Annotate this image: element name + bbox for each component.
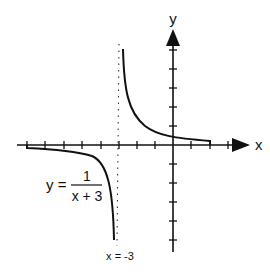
- asymptote-label: x = -3: [106, 250, 134, 262]
- equation-numerator: 1: [83, 168, 91, 184]
- graph-canvas: y x y = 1 x + 3 x = -3: [0, 0, 270, 275]
- equation-lhs: y =: [46, 176, 67, 193]
- curve-right-branch: [123, 49, 210, 145]
- y-axis-label: y: [169, 10, 177, 27]
- x-axis-label: x: [255, 136, 263, 153]
- equation-label: y = 1 x + 3: [46, 168, 103, 204]
- x-axis-arrow-icon: [232, 138, 250, 152]
- y-axis: [166, 29, 180, 252]
- y-axis-arrow-icon: [166, 29, 180, 46]
- equation-denominator: x + 3: [72, 188, 103, 204]
